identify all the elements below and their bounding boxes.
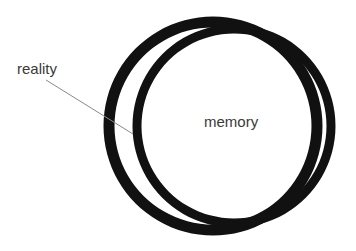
- diagram-canvas: reality memory: [0, 0, 356, 251]
- canvas-background: [0, 0, 356, 251]
- reality-label: reality: [17, 60, 58, 77]
- memory-label: memory: [204, 113, 259, 130]
- venn-diagram-graphic: reality memory: [0, 0, 356, 251]
